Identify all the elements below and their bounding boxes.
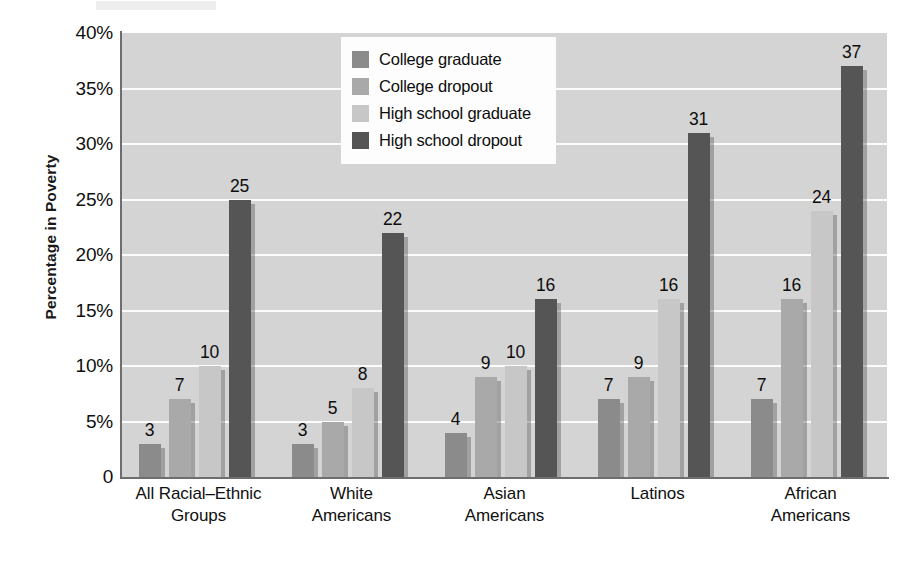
bar-shadow [803, 303, 807, 477]
bar[interactable] [292, 444, 314, 477]
bar[interactable] [199, 366, 221, 477]
bar-value-label: 24 [799, 187, 845, 208]
legend: College graduateCollege dropoutHigh scho… [341, 37, 556, 164]
legend-swatch-icon [352, 132, 369, 149]
bar-value-label: 7 [739, 375, 785, 396]
x-category-label: AfricanAmericans [734, 483, 887, 527]
legend-swatch-icon [352, 78, 369, 95]
y-tick-label: 30% [40, 133, 120, 155]
x-category-label-line: White [275, 483, 428, 505]
legend-label: High school graduate [379, 104, 531, 123]
x-category-label-line: Groups [122, 505, 275, 527]
bar-shadow [161, 448, 165, 477]
bar[interactable] [658, 299, 680, 477]
bar[interactable] [688, 133, 710, 477]
y-tick-label: 10% [40, 355, 120, 377]
legend-label: High school dropout [379, 131, 522, 150]
bar-shadow [191, 403, 195, 477]
y-tick-label: 0 [40, 466, 120, 488]
legend-swatch-icon [352, 51, 369, 68]
bar-value-label: 16 [646, 275, 692, 296]
y-tick-label: 40% [40, 22, 120, 44]
bar-shadow [710, 137, 714, 477]
bar[interactable] [628, 377, 650, 477]
bar[interactable] [841, 66, 863, 477]
legend-label: College graduate [379, 50, 501, 69]
bar-shadow [680, 303, 684, 477]
bar-value-label: 8 [340, 364, 386, 385]
bar-value-label: 16 [769, 275, 815, 296]
x-category-label-line: Asian [428, 483, 581, 505]
x-category-label-line: All Racial–Ethnic [122, 483, 275, 505]
bar[interactable] [169, 399, 191, 477]
x-category-label-line: African [734, 483, 887, 505]
y-axis-tick-labels: 05%10%15%20%25%30%35%40% [40, 0, 120, 564]
bar-value-label: 3 [127, 420, 173, 441]
bar[interactable] [352, 388, 374, 477]
bar[interactable] [535, 299, 557, 477]
bar-value-label: 37 [829, 42, 875, 63]
bar-shadow [620, 403, 624, 477]
bar[interactable] [751, 399, 773, 477]
bar-shadow [557, 303, 561, 477]
bar[interactable] [229, 200, 251, 478]
bar-shadow [833, 215, 837, 477]
x-axis-category-labels: All Racial–EthnicGroupsWhiteAmericansAsi… [122, 483, 887, 558]
bar-value-label: 5 [310, 398, 356, 419]
bar-value-label: 4 [433, 409, 479, 430]
bar-value-label: 22 [370, 209, 416, 230]
bar[interactable] [475, 377, 497, 477]
bar-chart: Percentage in Poverty 05%10%15%20%25%30%… [0, 0, 909, 564]
x-category-label-line: Latinos [581, 483, 734, 505]
bar-shadow [467, 437, 471, 477]
bar[interactable] [382, 233, 404, 477]
legend-item[interactable]: College graduate [352, 46, 546, 73]
x-axis-line [120, 477, 889, 479]
bar-group: 791631 [598, 33, 710, 477]
x-category-label: AsianAmericans [428, 483, 581, 527]
bar-shadow [314, 448, 318, 477]
bar[interactable] [811, 211, 833, 477]
bar-value-label: 16 [523, 275, 569, 296]
bar[interactable] [445, 433, 467, 477]
bar[interactable] [598, 399, 620, 477]
bar-value-label: 3 [280, 420, 326, 441]
bar-shadow [251, 204, 255, 478]
bar-shadow [221, 370, 225, 477]
bar-group: 371025 [139, 33, 251, 477]
bar[interactable] [322, 422, 344, 478]
bar-shadow [650, 381, 654, 477]
bar-value-label: 10 [493, 342, 539, 363]
y-tick-label: 35% [40, 78, 120, 100]
bar-shadow [404, 237, 408, 477]
legend-label: College dropout [379, 77, 493, 96]
legend-item[interactable]: High school graduate [352, 100, 546, 127]
bar-value-label: 9 [616, 353, 662, 374]
x-category-label: Latinos [581, 483, 734, 505]
x-category-label: All Racial–EthnicGroups [122, 483, 275, 527]
bar-shadow [773, 403, 777, 477]
y-tick-label: 15% [40, 300, 120, 322]
bar-group: 7162437 [751, 33, 863, 477]
bar[interactable] [139, 444, 161, 477]
y-tick-label: 25% [40, 189, 120, 211]
x-category-label-line: Americans [428, 505, 581, 527]
bar-shadow [374, 392, 378, 477]
bar[interactable] [505, 366, 527, 477]
x-category-label: WhiteAmericans [275, 483, 428, 527]
bar-shadow [344, 426, 348, 478]
bar-value-label: 10 [187, 342, 233, 363]
y-tick-label: 20% [40, 244, 120, 266]
legend-item[interactable]: College dropout [352, 73, 546, 100]
bar-value-label: 31 [676, 109, 722, 130]
y-tick-label: 5% [40, 411, 120, 433]
x-category-label-line: Americans [275, 505, 428, 527]
legend-item[interactable]: High school dropout [352, 127, 546, 154]
y-axis-line [120, 31, 122, 479]
bar-shadow [863, 70, 867, 477]
bar-shadow [497, 381, 501, 477]
bar[interactable] [781, 299, 803, 477]
bar-value-label: 7 [157, 375, 203, 396]
bar-value-label: 7 [586, 375, 632, 396]
bar-value-label: 25 [217, 176, 263, 197]
